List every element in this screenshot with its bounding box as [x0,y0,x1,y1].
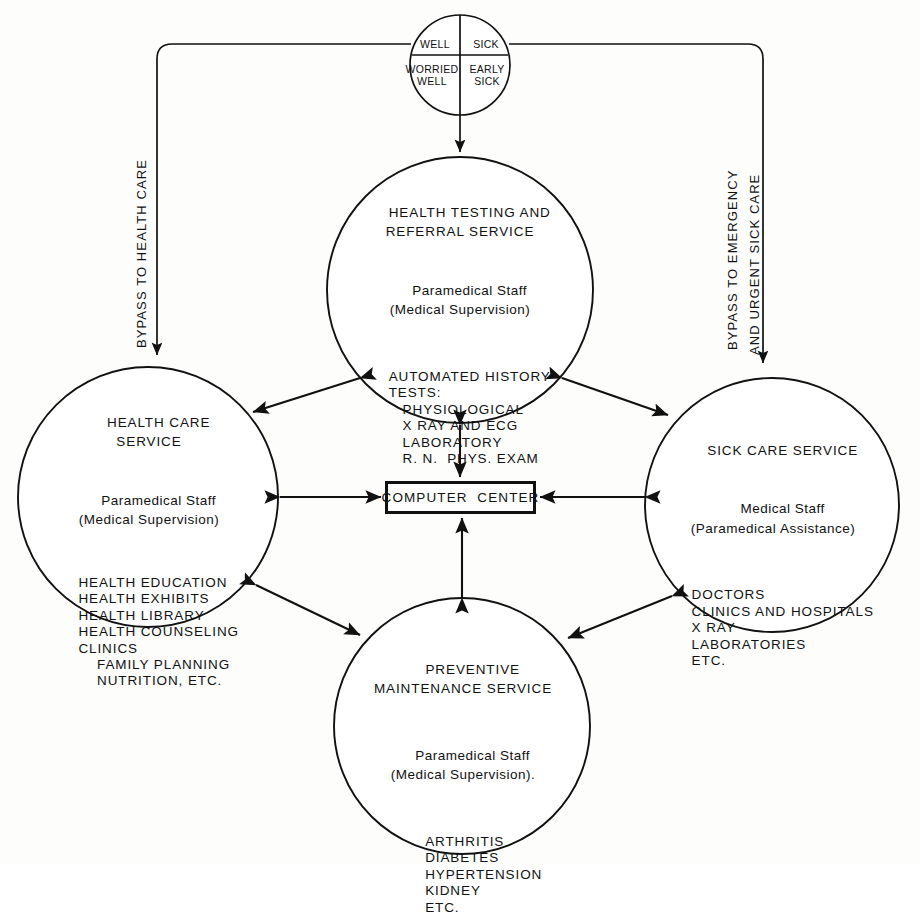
patient-segment-early-sick: EARLY SICK [462,64,512,87]
health-testing-heading: HEALTH TESTING AND REFERRAL SERVICE [386,205,551,240]
health-testing-body: AUTOMATED HISTORY TESTS: PHYSIOLOGICAL X… [389,369,551,468]
preventive-maintenance-heading: PREVENTIVE MAINTENANCE SERVICE [374,662,552,697]
spacer [18,548,280,555]
health-testing-node-text: HEALTH TESTING AND REFERRAL SERVICE Para… [330,182,590,487]
preventive-maintenance-body: ARTHRITIS DIABETES HYPERTENSION KIDNEY E… [403,834,542,916]
sick-care-node-text: SICK CARE SERVICE Medical Staff (Paramed… [642,420,904,689]
health-care-heading: HEALTH CARE SERVICE [107,415,210,450]
patient-segment-sick: SICK [463,39,509,51]
spacer [642,557,904,568]
bypass-right-label-line1: BYPASS TO EMERGENCY [725,169,740,350]
preventive-maintenance-staff: Paramedical Staff (Medical Supervision). [391,748,536,783]
health-care-node-text: HEALTH CARE SERVICE Paramedical Staff (M… [18,392,280,709]
spacer [332,717,594,725]
health-care-body: HEALTH EDUCATION HEALTH EXHIBITS HEALTH … [78,575,239,690]
sick-care-body: DOCTORS CLINICS AND HOSPITALS X RAY LABO… [692,587,874,669]
bypass-right-label-line2: AND URGENT SICK CARE [747,174,762,355]
health-testing-staff: Paramedical Staff (Medical Supervision) [390,283,530,318]
patient-segment-worried-well: WORRIED WELL [405,64,459,87]
patient-segment-well: WELL [412,39,458,51]
spacer [332,803,594,814]
bypass-left-label: BYPASS TO HEALTH CARE [134,159,149,348]
computer-center-label: COMPUTER CENTER [382,490,540,505]
health-care-staff: Paramedical Staff (Medical Supervision) [79,493,219,528]
spacer [330,338,590,349]
computer-center-box: COMPUTER CENTER [385,481,536,514]
sick-care-heading: SICK CARE SERVICE [707,443,858,458]
sick-care-staff: Medical Staff (Paramedical Assistance) [691,501,855,536]
preventive-maintenance-node-text: PREVENTIVE MAINTENANCE SERVICE Paramedic… [332,639,594,916]
